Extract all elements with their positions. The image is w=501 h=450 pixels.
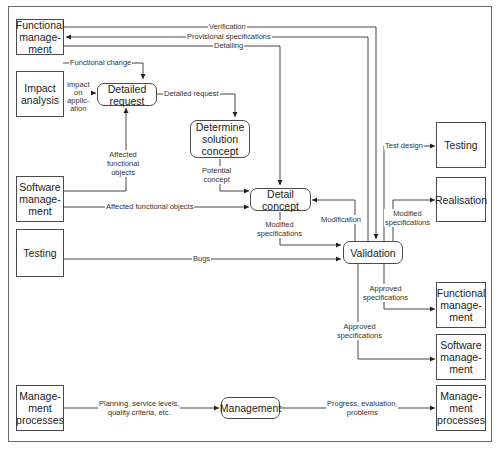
edge-label-modified-specifications-detail: Modified specifications	[256, 220, 303, 238]
edge-label-functional-change: Functional change	[69, 58, 132, 67]
node-software-management-destination: Software manage- ment	[436, 334, 486, 380]
edge-label-modified-specifications-realisation: Modified specifications	[384, 209, 431, 227]
edge-label-detailing: Detailing	[213, 41, 244, 50]
node-management-processes-destination: Manage- ment processes	[436, 385, 486, 431]
edge-label-verification: Verification	[208, 22, 247, 31]
node-management: Management	[221, 397, 280, 419]
edge-label-approved-specifications-sm: Approved specifications	[336, 322, 383, 340]
node-functional-management-destination: Functional manage- ment	[436, 282, 486, 328]
edge-label-affected-functional-objects: Affected functional objects	[105, 202, 194, 211]
node-testing-source: Testing	[16, 229, 64, 277]
edge-label-progress: Progress, evaluation, problems	[326, 399, 398, 417]
edge-label-potential-concept: Potential concept	[201, 166, 232, 184]
node-validation: Validation	[343, 241, 403, 264]
edge-label-detailed-request: Detailed request	[163, 89, 220, 98]
node-detailed-request: Detailed request	[97, 83, 157, 106]
edge-label-provisional-specifications: Provisional specifications	[186, 32, 272, 41]
node-determine-solution-concept: Determine solution concept	[190, 120, 250, 158]
node-software-management-source: Software manage- ment	[16, 176, 64, 222]
edge-label-affected-functional-objects-up: Affected functional objects	[106, 150, 140, 177]
node-detail-concept: Detail concept	[250, 188, 311, 211]
edge-label-bugs: Bugs	[192, 254, 211, 263]
edge-label-test-design: Test design	[384, 141, 424, 150]
node-functional-management-source: Functional manage- ment	[16, 19, 64, 55]
edge-label-modification: Modification	[320, 215, 362, 224]
edge-label-planning: Planning, service levels, quality criter…	[98, 399, 180, 417]
edge-label-impact-on-application: Impact on applic- ation	[66, 81, 91, 113]
node-management-processes-source: Manage- ment processes	[16, 385, 64, 431]
edge-label-approved-specifications-fm: Approved specifications	[362, 284, 409, 302]
node-realisation: Realisation	[436, 177, 486, 222]
node-testing-destination: Testing	[436, 122, 486, 168]
node-impact-analysis: Impact analysis	[16, 71, 64, 117]
